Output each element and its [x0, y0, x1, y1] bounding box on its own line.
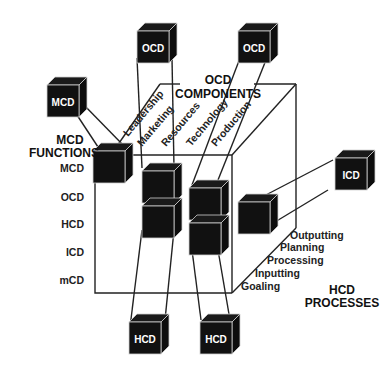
cube-mcd-external: MCD [47, 77, 87, 117]
svg-text:ICD: ICD [342, 170, 359, 181]
svg-text:Planning: Planning [280, 241, 324, 253]
cube-hcd-external-right: HCD [200, 314, 240, 354]
cube-ocd-external-right: OCD [238, 23, 278, 63]
svg-text:Goaling: Goaling [241, 280, 280, 292]
cube-internal-mcd-leadership [93, 143, 133, 183]
svg-text:MCD: MCD [56, 133, 84, 147]
cube-hcd-external-left: HCD [129, 314, 169, 354]
components-axis: OCD COMPONENTS Leadership Marketing Reso… [120, 73, 261, 148]
processes-axis: Outputting Planning Processing Inputting… [241, 229, 379, 310]
svg-text:mCD: mCD [59, 274, 84, 286]
svg-text:MCD: MCD [60, 162, 84, 174]
svg-text:Processing: Processing [267, 254, 324, 266]
cube-icd-external: ICD [335, 150, 375, 190]
svg-text:Inputting: Inputting [255, 267, 300, 279]
svg-text:OCD: OCD [205, 73, 232, 87]
svg-text:HCD: HCD [205, 334, 227, 345]
cube-ocd-external-left: OCD [137, 23, 177, 63]
svg-text:OCD: OCD [142, 43, 164, 54]
svg-text:OCD: OCD [61, 191, 85, 203]
cube-internal-ocd-resources [142, 163, 182, 203]
svg-text:HCD: HCD [134, 334, 156, 345]
svg-text:Outputting: Outputting [290, 229, 344, 241]
svg-text:FUNCTIONS: FUNCTIONS [29, 146, 99, 160]
cube-internal-hcd-resources [142, 198, 182, 238]
three-dimensional-cube-diagram: MCD OCD OCD ICD HCD HCD MCD FUNCTIONS MC… [0, 0, 388, 368]
cube-internal-icd-process [238, 194, 278, 234]
cube-internal-hcd-technology [189, 215, 229, 255]
svg-text:HCD: HCD [61, 218, 84, 230]
svg-text:MCD: MCD [52, 97, 75, 108]
svg-text:PROCESSES: PROCESSES [305, 296, 380, 310]
svg-text:HCD: HCD [329, 283, 355, 297]
cube-internal-ocd-technology [189, 180, 229, 220]
svg-text:ICD: ICD [66, 246, 85, 258]
svg-text:OCD: OCD [243, 43, 265, 54]
functions-axis: MCD FUNCTIONS MCD OCD HCD ICD mCD [29, 133, 99, 286]
